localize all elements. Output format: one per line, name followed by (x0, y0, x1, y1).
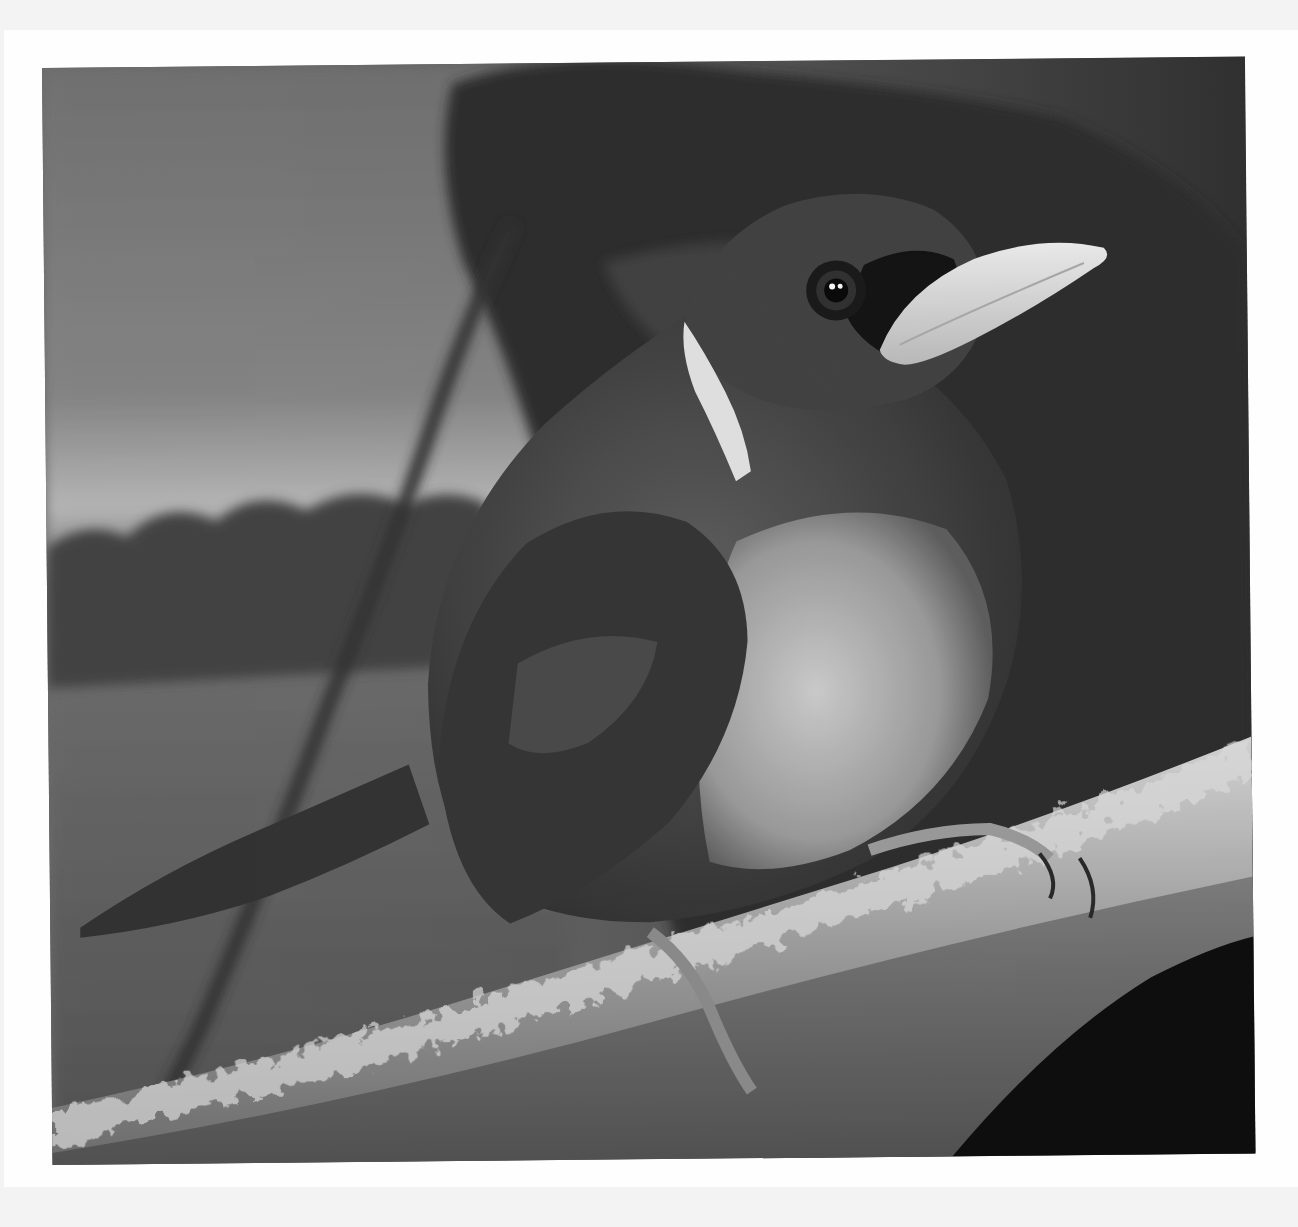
page-top-margin (0, 0, 1298, 30)
bird-photograph (42, 56, 1255, 1164)
photo-canvas (42, 56, 1255, 1164)
page-bottom-margin (0, 1187, 1298, 1227)
page-left-margin (0, 0, 4, 1227)
